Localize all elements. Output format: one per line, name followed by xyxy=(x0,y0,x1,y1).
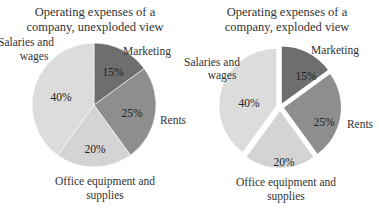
label-office-line-1: Office equipment and xyxy=(236,176,336,189)
value-label-office: 20% xyxy=(273,156,295,168)
chart-title-line-1: Operating expenses of a xyxy=(35,5,156,19)
value-label-salaries: 40% xyxy=(50,91,72,103)
label-marketing: Marketing xyxy=(123,45,171,58)
value-label-salaries: 40% xyxy=(238,97,260,109)
label-salaries-line-1: Salaries and xyxy=(184,56,240,68)
label-office-line-1: Office equipment and xyxy=(55,175,155,188)
pie-chart-unexploded: Operating expenses of a company, unexplo… xyxy=(0,5,187,202)
value-label-marketing: 15% xyxy=(295,70,317,82)
chart-canvas: Operating expenses of a company, unexplo… xyxy=(0,0,379,208)
chart-title-line-2: company, unexploded view xyxy=(27,20,164,34)
chart-title-line-2: company, exploded view xyxy=(225,20,350,34)
value-label-rents: 25% xyxy=(313,116,335,128)
chart-title-line-1: Operating expenses of a xyxy=(227,5,348,19)
value-label-marketing: 15% xyxy=(102,66,124,78)
label-rents: Rents xyxy=(160,114,187,126)
label-salaries-line-2: wages xyxy=(208,69,237,82)
label-salaries-line-2: wages xyxy=(20,50,49,63)
label-rents: Rents xyxy=(347,118,374,130)
value-label-rents: 25% xyxy=(121,107,143,119)
label-office-line-2: supplies xyxy=(86,189,124,202)
label-office-line-2: supplies xyxy=(267,190,305,203)
value-label-office: 20% xyxy=(84,143,106,155)
label-marketing: Marketing xyxy=(311,44,359,57)
pie-chart-exploded: Operating expenses of a company, explode… xyxy=(184,5,374,203)
label-salaries-line-1: Salaries and xyxy=(0,36,54,48)
